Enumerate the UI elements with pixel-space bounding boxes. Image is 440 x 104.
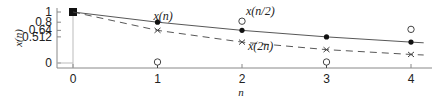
x-axis-label: n [238,86,244,98]
data-point [408,26,414,32]
y-axis-label: x(n) [12,29,25,48]
labels-layer: x(n)x(n/2)x(2n) [153,4,275,53]
x-tick-label: 1 [154,72,161,86]
y-tick-label: 0 [45,56,52,70]
x-tick-label: 0 [70,72,77,86]
x-tick-label: 4 [408,72,415,86]
x-tick-label: 2 [239,72,246,86]
data-point [324,34,329,39]
data-point [239,18,245,24]
annotation-label: x(n) [153,9,173,23]
axes: 00.5120.640.8101234nx(n) [12,5,432,98]
chart: 00.5120.640.8101234nx(n) x(n)x(n/2)x(2n) [0,0,440,104]
data-point [239,28,244,33]
annotation-label: x(2n) [247,39,273,53]
data-point [408,40,413,45]
y-tick-label: 1 [45,5,52,19]
x-tick-label: 3 [323,72,330,86]
data-point [154,59,160,65]
data-point [323,59,329,65]
annotation-label: x(n/2) [245,4,275,18]
